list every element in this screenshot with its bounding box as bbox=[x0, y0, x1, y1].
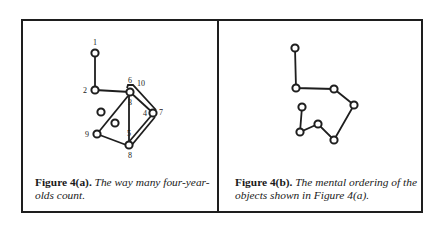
label-9: 9 bbox=[85, 130, 89, 139]
figure-4b-diagram bbox=[295, 48, 354, 140]
label-7: 7 bbox=[159, 108, 163, 117]
label-8: 8 bbox=[128, 151, 132, 160]
node-9 bbox=[93, 130, 100, 137]
node-2 bbox=[91, 86, 98, 93]
label-3: 3 bbox=[128, 98, 132, 107]
node-4-7 bbox=[149, 109, 156, 116]
figure-4a-caption: Figure 4(a). The way many four-year-olds… bbox=[35, 176, 215, 202]
figure-4a-caption-label: Figure 4(a). bbox=[35, 176, 92, 188]
label-2: 2 bbox=[83, 86, 87, 95]
node-5-8 bbox=[125, 141, 132, 148]
label-1: 1 bbox=[93, 38, 97, 47]
node-1 bbox=[91, 49, 98, 56]
label-4: 4 bbox=[143, 109, 147, 118]
figure-4b-caption-label: Figure 4(b). bbox=[235, 176, 292, 188]
label-10: 10 bbox=[137, 79, 145, 88]
node-uncounted-2 bbox=[111, 119, 118, 126]
label-6: 6 bbox=[128, 76, 132, 85]
node-uncounted-1 bbox=[97, 108, 104, 115]
figure-4b-nodes bbox=[291, 44, 357, 143]
node-3-6-10 bbox=[126, 88, 133, 95]
figure-4b-caption: Figure 4(b). The mental ordering of the … bbox=[235, 176, 417, 202]
label-5: 5 bbox=[127, 129, 131, 138]
figure-4a-diagram bbox=[95, 53, 156, 146]
